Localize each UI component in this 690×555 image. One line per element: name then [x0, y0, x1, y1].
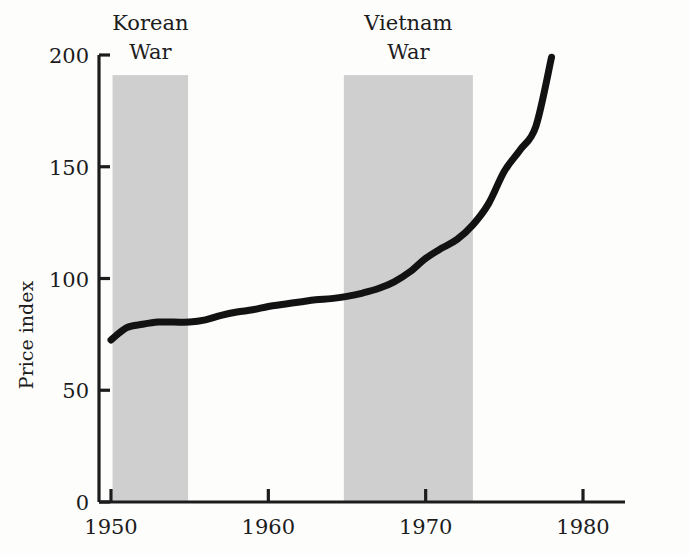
y-tick-label: 100: [49, 268, 89, 292]
vietnam-war-shaded-band: [344, 75, 473, 501]
y-axis-tick-labels: 050100150200: [49, 44, 89, 515]
y-tick-label: 200: [49, 44, 89, 68]
x-tick-label: 1980: [556, 515, 609, 539]
y-tick-label: 50: [62, 379, 89, 403]
vietnam-war-label-line1: Vietnam: [363, 11, 452, 35]
y-tick-label: 150: [49, 156, 89, 180]
x-axis-tick-labels: 1950196019701980: [84, 515, 609, 539]
x-tick-label: 1960: [242, 515, 295, 539]
korean-war-shaded-band: [113, 75, 189, 501]
y-axis-tick-marks: [99, 55, 110, 502]
y-tick-label: 0: [76, 491, 89, 515]
annotation-labels-group: Korean War Vietnam War: [112, 11, 452, 64]
vietnam-war-label-line2: War: [387, 40, 430, 64]
y-axis-title: Price index: [15, 281, 37, 390]
shaded-regions-group: [113, 75, 473, 501]
price-index-line-chart: Korean War Vietnam War 050100150200 1950…: [0, 0, 690, 555]
korean-war-label-line2: War: [129, 40, 172, 64]
x-tick-label: 1950: [84, 515, 137, 539]
chart-figure: Korean War Vietnam War 050100150200 1950…: [0, 0, 690, 555]
korean-war-label-line1: Korean: [112, 11, 188, 35]
x-tick-label: 1970: [399, 515, 452, 539]
